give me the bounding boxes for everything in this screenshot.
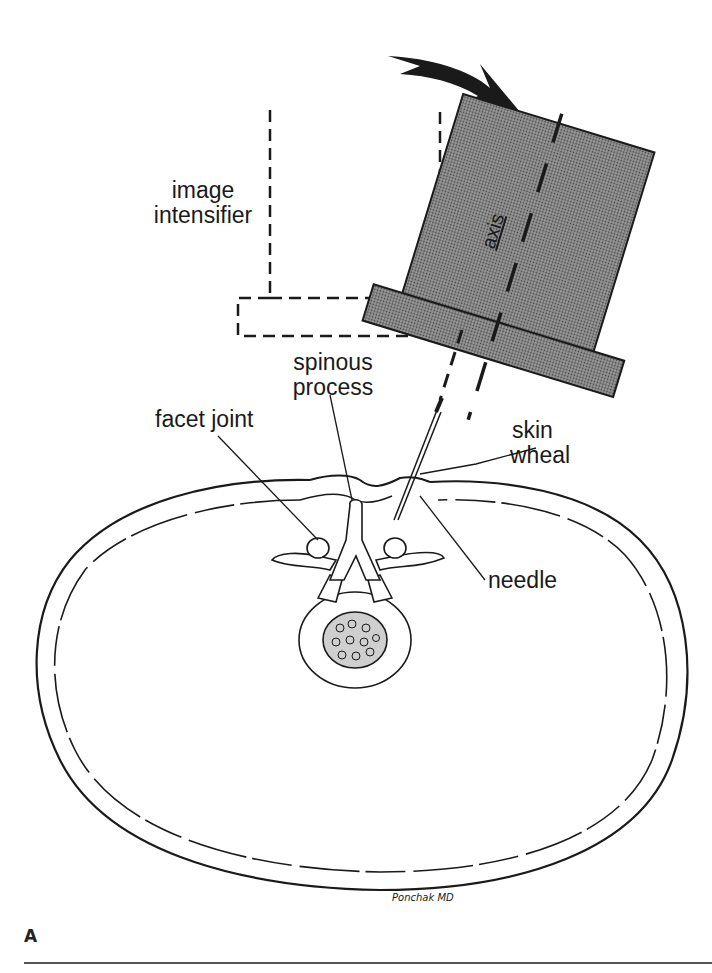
skin-wheal-line2: wheal <box>510 443 570 468</box>
label-skin-wheal: skin wheal <box>510 418 570 468</box>
vertebra-icon <box>272 500 444 688</box>
image-intensifier-line2: intensifier <box>138 203 268 228</box>
label-image-intensifier: image intensifier <box>138 178 268 228</box>
bottom-rule <box>24 962 712 964</box>
rotation-arrow-icon <box>388 56 520 112</box>
label-facet-joint: facet joint <box>155 407 253 432</box>
spinous-process-line2: process <box>278 375 388 400</box>
panel-label: A <box>24 926 37 946</box>
image-intensifier-tilted <box>344 76 688 459</box>
leader-lines <box>218 395 536 580</box>
needle-icon <box>394 398 442 520</box>
image-intensifier-line1: image <box>138 178 268 203</box>
skin-wheal-line1: skin <box>510 418 570 443</box>
artist-signature: Ponchak MD <box>392 892 454 903</box>
spinous-process-line1: spinous <box>278 350 388 375</box>
label-spinous-process: spinous process <box>278 350 388 400</box>
spine-injection-diagram: axis <box>0 0 712 973</box>
label-needle: needle <box>488 568 557 593</box>
